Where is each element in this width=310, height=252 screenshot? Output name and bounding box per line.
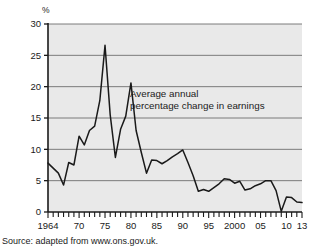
y-axis-unit-label: % [42, 5, 50, 15]
y-tick-label: 10 [30, 144, 41, 155]
x-tick-label: 05 [255, 220, 266, 231]
y-tick-label: 5 [36, 175, 41, 186]
x-tick-label: 85 [152, 220, 163, 231]
x-tick-label: 80 [126, 220, 137, 231]
y-tick-label: 30 [30, 18, 41, 29]
x-tick-label: 1964 [37, 220, 58, 231]
earnings-chart-figure: 051015202530 19647075808590952000051013 … [0, 0, 310, 252]
chart-canvas: 051015202530 19647075808590952000051013 … [0, 0, 310, 252]
x-axis [48, 212, 302, 218]
x-tick-labels: 19647075808590952000051013 [37, 220, 307, 231]
x-tick-label: 95 [203, 220, 214, 231]
x-tick-label: 10 [281, 220, 292, 231]
x-tick-label: 90 [177, 220, 188, 231]
chart-annotation-line-2: percentage change in earnings [130, 100, 265, 111]
x-tick-label: 13 [297, 220, 308, 231]
y-tick-labels: 051015202530 [30, 18, 41, 217]
x-tick-label: 75 [100, 220, 111, 231]
y-axis [44, 23, 48, 212]
x-tick-label: 70 [74, 220, 85, 231]
y-tick-label: 0 [36, 206, 41, 217]
x-tick-label: 2000 [224, 220, 245, 231]
source-note: Source: adapted from www.ons.gov.uk. [2, 236, 158, 246]
chart-annotation-line-1: Average annual [130, 88, 198, 99]
y-tick-label: 20 [30, 81, 41, 92]
y-tick-label: 25 [30, 50, 41, 61]
y-tick-label: 15 [30, 112, 41, 123]
